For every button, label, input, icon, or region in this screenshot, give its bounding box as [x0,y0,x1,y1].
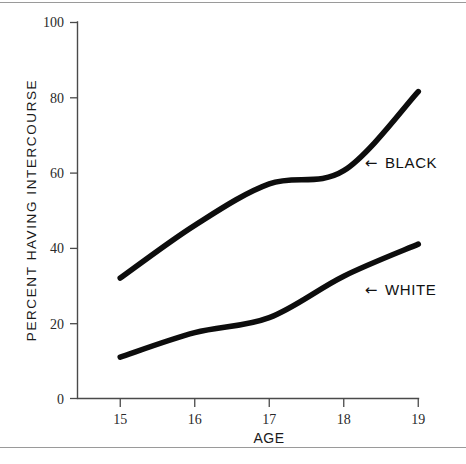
series-label-white: WHITE [385,281,436,298]
y-tick-marks [70,23,78,399]
y-tick-label: 60 [50,166,64,181]
series-line-white [120,244,418,357]
y-tick-label: 40 [50,241,64,256]
y-tick-label: 20 [50,317,64,332]
annotation-black: ← BLACK [365,154,437,172]
left-arrow-icon: ← [365,281,378,299]
figure-container: 100 80 60 40 20 0 15 16 17 18 19 AGE PER… [0,0,466,464]
x-tick-label: 17 [262,412,276,427]
y-tick-label: 80 [50,91,64,106]
y-tick-label: 100 [43,15,64,30]
line-chart-plot: 100 80 60 40 20 0 15 16 17 18 19 AGE PER… [0,0,466,464]
y-tick-labels: 100 80 60 40 20 0 [43,15,64,407]
x-axis-title: AGE [253,430,284,446]
x-tick-label: 18 [337,412,351,427]
annotation-white: ← WHITE [365,281,437,299]
x-tick-label: 19 [411,412,425,427]
left-arrow-icon: ← [365,154,378,172]
y-tick-label: 0 [57,392,64,407]
x-tick-marks [120,399,418,408]
x-tick-labels: 15 16 17 18 19 [113,412,425,427]
series-label-black: BLACK [385,154,437,171]
x-tick-label: 15 [113,412,127,427]
series-line-black [120,92,418,278]
y-axis-title: PERCENT HAVING INTERCOURSE [24,79,39,341]
axis-lines [78,22,419,399]
x-tick-label: 16 [188,412,202,427]
